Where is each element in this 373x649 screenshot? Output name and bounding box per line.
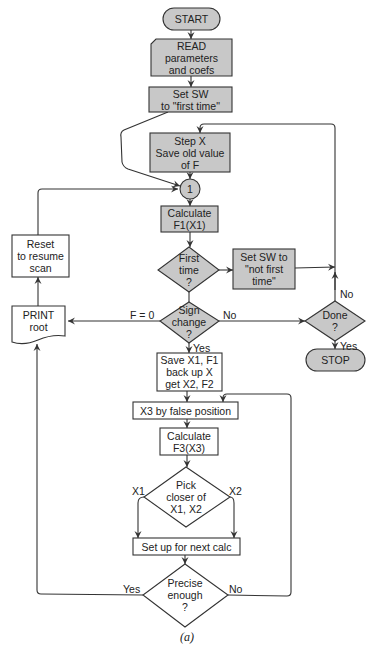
- precise-label: Precise enough ?: [160, 576, 210, 614]
- sign-change-line-3: ?: [186, 328, 192, 340]
- first-time-line-2: time: [179, 264, 199, 276]
- edge-label-f-eq-0: F = 0: [130, 309, 154, 321]
- stop-label: STOP: [306, 349, 365, 371]
- start-label: START: [163, 8, 220, 30]
- start-text: START: [175, 13, 208, 25]
- save-x1-line-2: back up X: [166, 366, 213, 378]
- save-x1-line-3: get X2, F2: [165, 378, 213, 390]
- flowchart-canvas: START READ parameters and coefs Set SW t…: [0, 0, 373, 649]
- calc-f3-line-1: Calculate: [167, 430, 211, 442]
- step-x-line-2: Save old value: [156, 147, 225, 159]
- set-sw-not-first-line-3: time": [252, 275, 276, 287]
- done-line-2: ?: [332, 321, 338, 333]
- connector-text: 1: [187, 183, 193, 195]
- read-label: READ parameters and coefs: [151, 39, 232, 76]
- edge-label-pick-x2: X2: [229, 485, 242, 497]
- edge-label-sign-yes: Yes: [193, 342, 210, 354]
- edge-label-sign-no: No: [223, 309, 236, 321]
- x3-text: X3 by false position: [140, 405, 231, 417]
- read-line-2: parameters: [165, 52, 218, 64]
- reset-label: Reset to resume scan: [12, 235, 69, 277]
- precise-line-2: enough: [167, 589, 202, 601]
- sign-change-line-1: Sign: [178, 304, 199, 316]
- save-x1-line-1: Save X1, F1: [161, 354, 219, 366]
- figure-caption: (a): [180, 630, 194, 645]
- setup-label: Set up for next calc: [133, 538, 240, 555]
- read-line-3: and coefs: [169, 64, 215, 76]
- save-x1-label: Save X1, F1 back up X get X2, F2: [157, 353, 222, 391]
- edge-label-precise-yes: Yes: [123, 583, 140, 595]
- set-sw-not-first-label: Set SW to "not first time": [233, 249, 295, 289]
- set-sw-not-first-line-1: Set SW to: [240, 251, 287, 263]
- calc-f1-label: Calculate F1(X1): [161, 206, 218, 232]
- set-sw-first-label: Set SW to "first time": [149, 87, 232, 112]
- calc-f3-line-2: F3(X3): [173, 442, 205, 454]
- step-x-label: Step X Save old value of F: [150, 133, 230, 172]
- edge-label-precise-no: No: [229, 583, 242, 595]
- done-line-1: Done: [322, 309, 347, 321]
- print-root-line-2: root: [29, 321, 47, 333]
- first-time-line-3: ?: [186, 276, 192, 288]
- x3-label: X3 by false position: [133, 402, 238, 419]
- edge-label-done-no: No: [340, 288, 353, 300]
- set-sw-first-line-2: to "first time": [161, 100, 220, 112]
- read-line-1: READ: [177, 40, 206, 52]
- set-sw-first-line-1: Set SW: [173, 88, 209, 100]
- pick-closer-line-3: X1, X2: [170, 503, 202, 515]
- done-label: Done ?: [315, 307, 355, 335]
- edge-label-done-yes: Yes: [340, 340, 357, 352]
- setup-text: Set up for next calc: [142, 541, 232, 553]
- calc-f1-line-2: F1(X1): [173, 219, 205, 231]
- print-root-line-1: PRINT: [23, 309, 55, 321]
- first-time-line-1: First: [179, 252, 199, 264]
- reset-line-2: to resume: [17, 250, 64, 262]
- reset-line-3: scan: [29, 262, 51, 274]
- step-x-line-3: of F: [181, 159, 199, 171]
- stop-text: STOP: [321, 354, 349, 366]
- pick-closer-line-2: closer of: [166, 491, 206, 503]
- precise-line-1: Precise: [167, 577, 202, 589]
- calc-f3-label: Calculate F3(X3): [160, 428, 218, 455]
- sign-change-label: Sign change ?: [164, 303, 214, 341]
- reset-line-1: Reset: [27, 238, 54, 250]
- pick-closer-label: Pick closer of X1, X2: [158, 478, 214, 516]
- pick-closer-line-1: Pick: [176, 479, 196, 491]
- print-root-label: PRINT root: [12, 306, 65, 336]
- first-time-label: First time ?: [164, 251, 214, 289]
- connector-label: 1: [180, 179, 200, 199]
- calc-f1-line-1: Calculate: [168, 207, 212, 219]
- sign-change-line-2: change: [172, 316, 206, 328]
- set-sw-not-first-line-2: "not first: [245, 263, 283, 275]
- step-x-line-1: Step X: [174, 135, 206, 147]
- edge-label-pick-x1: X1: [132, 485, 145, 497]
- precise-line-3: ?: [182, 601, 188, 613]
